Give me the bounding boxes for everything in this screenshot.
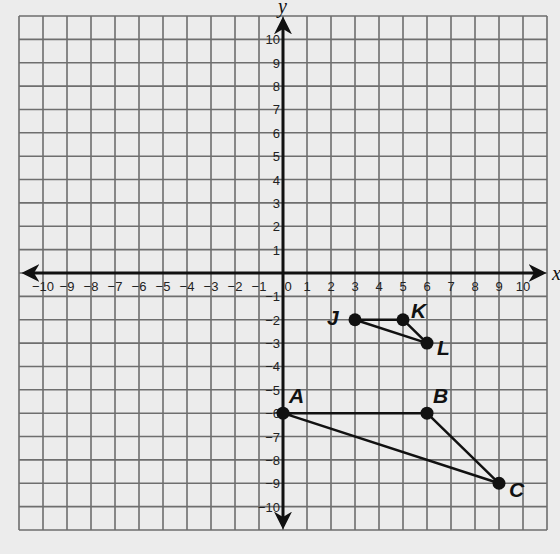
- y-tick-label: 2: [273, 219, 280, 234]
- x-tick-label: −9: [60, 279, 75, 294]
- point-c: [493, 477, 506, 490]
- triangle-jkl: [355, 320, 427, 343]
- point-label-j: J: [327, 306, 340, 329]
- y-tick-label: 6: [273, 126, 280, 141]
- y-tick-label: 5: [273, 149, 280, 164]
- y-tick-label: 1: [273, 243, 280, 258]
- x-tick-label: 2: [327, 279, 334, 294]
- y-tick-label: −5: [265, 383, 280, 398]
- x-tick-label: −5: [156, 279, 171, 294]
- y-tick-label: −8: [265, 453, 280, 468]
- y-tick-label: −2: [265, 313, 280, 328]
- y-tick-label: 10: [266, 32, 280, 47]
- coordinate-plane: xy −10−9−8−7−6−5−4−3−2−1012345678910−10−…: [0, 0, 560, 554]
- point-l: [421, 337, 434, 350]
- y-axis-label: y: [276, 0, 287, 18]
- point-j: [349, 313, 362, 326]
- x-tick-label: 9: [495, 279, 502, 294]
- x-tick-label: 10: [516, 279, 530, 294]
- point-b: [421, 407, 434, 420]
- point-label-c: C: [509, 478, 525, 501]
- point-label-a: A: [288, 384, 304, 407]
- x-tick-label: 6: [423, 279, 430, 294]
- triangles: [283, 320, 499, 484]
- point-a: [277, 407, 290, 420]
- axes: xy: [25, 0, 560, 526]
- point-label-l: L: [437, 336, 450, 359]
- x-tick-label: −2: [228, 279, 243, 294]
- point-label-k: K: [411, 299, 428, 322]
- x-tick-label: 3: [351, 279, 358, 294]
- x-tick-label: 0: [284, 279, 291, 294]
- y-tick-label: 9: [273, 56, 280, 71]
- y-tick-label: −3: [265, 336, 280, 351]
- x-tick-label: −6: [132, 279, 147, 294]
- y-tick-label: 7: [273, 102, 280, 117]
- y-tick-label: −1: [265, 289, 280, 304]
- x-tick-label: 1: [303, 279, 310, 294]
- y-tick-label: −7: [265, 430, 280, 445]
- x-tick-label: −8: [84, 279, 99, 294]
- x-tick-label: 4: [375, 279, 382, 294]
- y-tick-label: 3: [273, 196, 280, 211]
- point-label-b: B: [433, 384, 448, 407]
- x-tick-label: −3: [204, 279, 219, 294]
- point-k: [397, 313, 410, 326]
- x-tick-label: 8: [471, 279, 478, 294]
- y-tick-label: 8: [273, 79, 280, 94]
- y-tick-label: −10: [258, 500, 280, 515]
- x-axis-label: x: [551, 262, 560, 284]
- y-tick-label: −4: [265, 359, 280, 374]
- x-tick-label: −4: [180, 279, 195, 294]
- x-tick-label: 7: [447, 279, 454, 294]
- x-tick-label: −7: [108, 279, 123, 294]
- x-tick-label: −10: [32, 279, 54, 294]
- y-tick-label: 4: [273, 173, 280, 188]
- y-tick-label: −9: [265, 476, 280, 491]
- triangle-abc: [283, 413, 499, 483]
- x-tick-label: 5: [399, 279, 406, 294]
